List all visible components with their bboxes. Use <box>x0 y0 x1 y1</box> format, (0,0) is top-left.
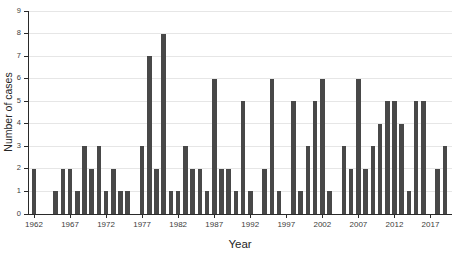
y-tick-6 <box>24 78 28 79</box>
bar-2008 <box>363 169 368 214</box>
gridline-6 <box>28 78 452 79</box>
bar-2003 <box>327 191 332 214</box>
bar-1980 <box>161 34 166 214</box>
bar-1967 <box>68 169 73 214</box>
x-axis-title: Year <box>28 238 452 250</box>
x-tick-label-1982: 1982 <box>162 220 194 229</box>
bar-1965 <box>53 191 58 214</box>
bar-1985 <box>198 169 203 214</box>
x-tick-label-1972: 1972 <box>90 220 122 229</box>
bar-2015 <box>414 101 419 214</box>
y-tick-label-8: 8 <box>0 29 21 37</box>
bar-1979 <box>154 169 159 214</box>
bar-2010 <box>378 124 383 214</box>
bar-1969 <box>82 146 87 214</box>
y-tick-8 <box>24 33 28 34</box>
y-tick-5 <box>24 101 28 102</box>
x-tick-label-1977: 1977 <box>126 220 158 229</box>
gridline-7 <box>28 56 452 57</box>
x-tick-label-1987: 1987 <box>198 220 230 229</box>
x-tick-2002 <box>322 215 323 219</box>
x-tick-2012 <box>394 215 395 219</box>
x-tick-label-2007: 2007 <box>342 220 374 229</box>
gridline-9 <box>28 11 452 12</box>
bar-1983 <box>183 146 188 214</box>
bar-2007 <box>356 79 361 214</box>
y-tick-label-2: 2 <box>0 164 21 172</box>
y-tick-label-5: 5 <box>0 97 21 105</box>
x-tick-1992 <box>250 215 251 219</box>
bar-1995 <box>270 79 275 214</box>
bar-2000 <box>306 146 311 214</box>
bar-2018 <box>435 169 440 214</box>
bar-1991 <box>241 101 246 214</box>
y-tick-1 <box>24 191 28 192</box>
bar-1974 <box>118 191 123 214</box>
bar-2014 <box>407 191 412 214</box>
y-tick-label-4: 4 <box>0 119 21 127</box>
bar-1998 <box>291 101 296 214</box>
y-tick-label-3: 3 <box>0 142 21 150</box>
bar-1970 <box>89 169 94 214</box>
x-tick-1967 <box>70 215 71 219</box>
x-axis-spine <box>28 214 452 215</box>
bar-1992 <box>248 191 253 214</box>
plot-area <box>28 11 452 214</box>
y-tick-9 <box>24 11 28 12</box>
y-tick-2 <box>24 168 28 169</box>
bar-1989 <box>226 169 231 214</box>
bar-chart-figure: Number of cases Year 0123456789196219671… <box>0 0 456 256</box>
bar-1971 <box>97 146 102 214</box>
bar-2001 <box>313 101 318 214</box>
x-tick-1972 <box>106 215 107 219</box>
bar-1978 <box>147 56 152 214</box>
x-tick-1977 <box>142 215 143 219</box>
bar-2011 <box>385 101 390 214</box>
bar-1972 <box>104 191 109 214</box>
y-tick-label-6: 6 <box>0 74 21 82</box>
bar-2013 <box>399 124 404 214</box>
bar-1999 <box>298 191 303 214</box>
y-tick-label-0: 0 <box>0 210 21 218</box>
y-tick-7 <box>24 56 28 57</box>
bar-2002 <box>320 79 325 214</box>
x-tick-label-2017: 2017 <box>414 220 446 229</box>
bar-1996 <box>277 191 282 214</box>
bar-1994 <box>262 169 267 214</box>
x-tick-label-1992: 1992 <box>234 220 266 229</box>
bar-2012 <box>392 101 397 214</box>
x-tick-1962 <box>34 215 35 219</box>
x-tick-label-1997: 1997 <box>270 220 302 229</box>
x-tick-1982 <box>178 215 179 219</box>
x-tick-label-1967: 1967 <box>54 220 86 229</box>
y-tick-0 <box>24 214 28 215</box>
y-tick-label-1: 1 <box>0 187 21 195</box>
bar-1973 <box>111 169 116 214</box>
x-tick-label-2002: 2002 <box>306 220 338 229</box>
y-tick-label-9: 9 <box>0 7 21 15</box>
y-axis-spine <box>28 11 29 215</box>
bar-2019 <box>443 146 448 214</box>
x-tick-2007 <box>358 215 359 219</box>
y-tick-3 <box>24 146 28 147</box>
bar-1988 <box>219 169 224 214</box>
bar-2009 <box>371 146 376 214</box>
bar-1987 <box>212 79 217 214</box>
bar-2006 <box>349 169 354 214</box>
bar-2005 <box>342 146 347 214</box>
bar-1977 <box>140 146 145 214</box>
bar-1968 <box>75 191 80 214</box>
y-axis-title: Number of cases <box>2 72 14 151</box>
bar-1986 <box>205 191 210 214</box>
bar-1981 <box>169 191 174 214</box>
bar-1990 <box>234 191 239 214</box>
bar-1982 <box>176 191 181 214</box>
bar-1962 <box>32 169 37 214</box>
y-tick-label-7: 7 <box>0 52 21 60</box>
bar-1975 <box>125 191 130 214</box>
x-tick-2017 <box>430 215 431 219</box>
bar-2016 <box>421 101 426 214</box>
y-tick-4 <box>24 123 28 124</box>
x-tick-label-2012: 2012 <box>378 220 410 229</box>
x-tick-label-1962: 1962 <box>18 220 50 229</box>
